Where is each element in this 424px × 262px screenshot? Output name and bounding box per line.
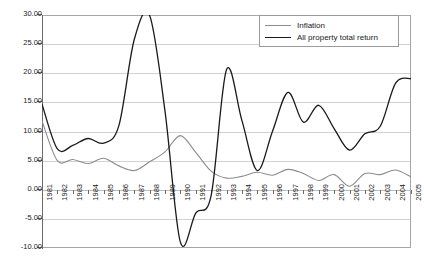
line-chart: 30.0025.0020.0015.0010.005.000.00-5.00-1… [0,0,424,262]
chart-legend: Inflation All property total return [259,15,399,47]
series-path-inflation [42,121,411,186]
legend-label-inflation: Inflation [297,21,325,30]
legend-label-all-property-total-return: All property total return [297,33,378,42]
legend-item-all-property-total-return: All property total return [265,31,393,43]
legend-swatch-inflation [265,25,291,26]
legend-item-inflation: Inflation [265,19,393,31]
legend-swatch-all-property-total-return [265,37,291,38]
